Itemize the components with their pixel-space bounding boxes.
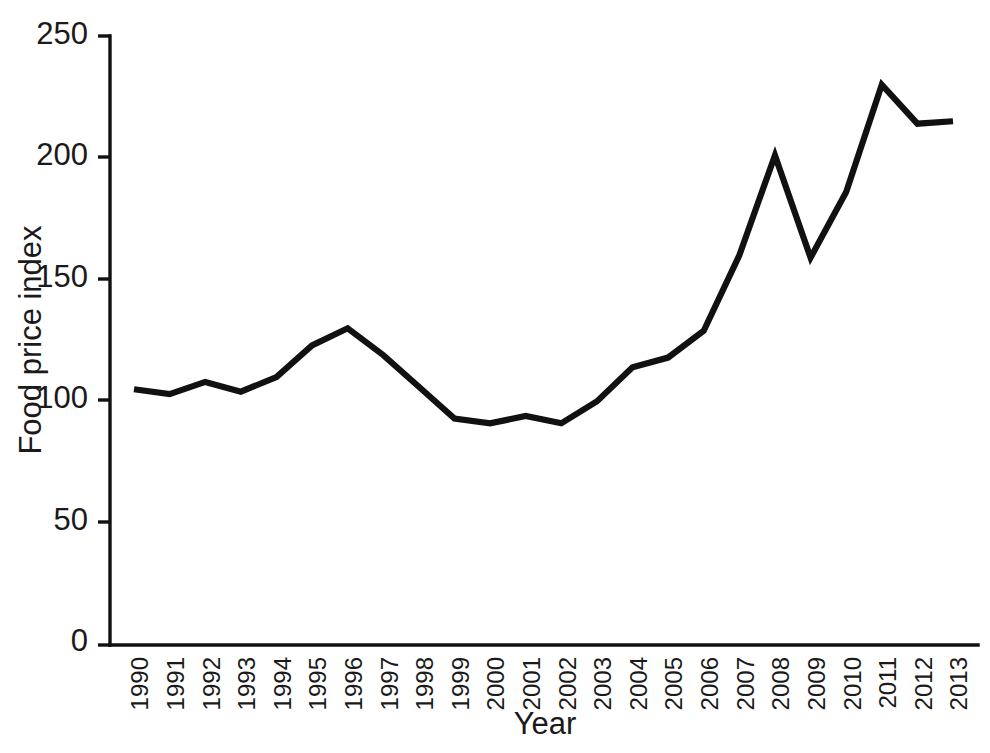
data-series-line: [134, 85, 953, 424]
x-tick-label: 2008: [767, 657, 794, 710]
x-tick-label: 1994: [269, 657, 296, 710]
line-chart-plot: Food price index 250 200 150 100 50 0 19…: [0, 0, 990, 753]
x-tick-label: 1998: [411, 657, 438, 710]
y-tick-label: 200: [36, 137, 88, 172]
x-tick-labels: 1990199119921993199419951996199719981999…: [126, 657, 972, 710]
x-tick-label: 2004: [625, 657, 652, 710]
x-tick-label: 1996: [340, 657, 367, 710]
x-tick-label: 2011: [874, 657, 901, 709]
y-tick-label: 150: [36, 259, 88, 294]
x-tick-label: 2013: [945, 657, 972, 710]
x-tick-label: 1995: [304, 657, 331, 710]
y-tick-label: 50: [54, 502, 88, 537]
x-tick-label: 1992: [198, 657, 225, 710]
y-tick-label: 0: [71, 623, 88, 658]
y-tick-label: 100: [36, 380, 88, 415]
y-tick-label: 250: [36, 16, 88, 51]
x-tick-label: 2009: [803, 657, 830, 710]
x-tick-label: 1991: [162, 657, 189, 710]
x-tick-label: 2006: [696, 657, 723, 710]
x-axis-title: Year: [514, 706, 577, 741]
x-tick-label: 1997: [376, 657, 403, 710]
chart-figure: Food price index 250 200 150 100 50 0 19…: [0, 0, 990, 753]
x-tick-label: 2003: [589, 657, 616, 710]
x-tick-label: 2010: [839, 657, 866, 710]
x-tick-label: 2005: [660, 657, 687, 710]
x-tick-label: 2002: [554, 657, 581, 710]
x-tick-label: 1990: [126, 657, 153, 710]
x-tick-label: 1993: [233, 657, 260, 710]
x-tick-label: 2001: [518, 657, 545, 710]
x-tick-label: 2000: [482, 657, 509, 710]
x-tick-label: 1999: [447, 657, 474, 710]
x-tick-label: 2012: [910, 657, 937, 710]
x-tick-label: 2007: [732, 657, 759, 710]
